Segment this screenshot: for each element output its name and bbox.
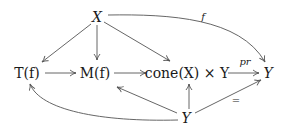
edge-label-pr: pr — [239, 57, 250, 67]
arrow-y-to-tf — [30, 84, 178, 120]
arrow-x-to-cone — [104, 22, 170, 61]
arrow-y-to-y-eq — [195, 80, 261, 113]
node-mf: M(f) — [80, 66, 110, 80]
node-y-bottom: Y — [181, 111, 190, 125]
edge-label-eq: = — [232, 96, 240, 106]
arrow-y-to-mf — [117, 87, 177, 113]
node-x: X — [92, 10, 102, 24]
edge-label-f: f — [201, 12, 205, 22]
node-y-right: Y — [263, 66, 272, 80]
commutative-diagram: X T(f) M(f) cone(X) × Y Y Y f pr = — [0, 0, 288, 129]
arrow-x-to-tf — [42, 24, 91, 62]
node-cone: cone(X) × Y — [145, 66, 229, 80]
node-tf: T(f) — [14, 66, 39, 80]
